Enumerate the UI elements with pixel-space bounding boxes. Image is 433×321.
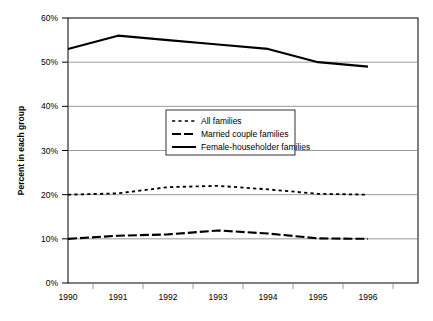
y-tick-label: 10% bbox=[41, 234, 58, 244]
y-tick-label: 0% bbox=[46, 278, 59, 288]
legend-label: Female-householder families bbox=[201, 142, 310, 152]
x-tick-label: 1990 bbox=[59, 292, 78, 302]
x-tick-label: 1994 bbox=[259, 292, 278, 302]
legend-label: All families bbox=[201, 116, 242, 126]
x-tick-label: 1991 bbox=[109, 292, 128, 302]
x-tick-label: 1996 bbox=[359, 292, 378, 302]
chart-canvas: 60% 50% 40% 30% 20% 10% 0% Percent in ea… bbox=[0, 0, 433, 321]
chart-legend: All families Married couple families Fem… bbox=[166, 110, 310, 155]
legend-label: Married couple families bbox=[201, 129, 288, 139]
x-tick-label: 1995 bbox=[309, 292, 328, 302]
line-chart: 60% 50% 40% 30% 20% 10% 0% Percent in ea… bbox=[0, 0, 433, 321]
x-tick-label: 1993 bbox=[209, 292, 228, 302]
x-tick-label: 1992 bbox=[159, 292, 178, 302]
y-tick-label: 20% bbox=[41, 190, 58, 200]
y-tick-label: 50% bbox=[41, 57, 58, 67]
y-axis-title: Percent in each group bbox=[16, 106, 26, 195]
y-tick-label: 40% bbox=[41, 101, 58, 111]
y-tick-label: 60% bbox=[41, 13, 58, 23]
y-tick-label: 30% bbox=[41, 146, 58, 156]
